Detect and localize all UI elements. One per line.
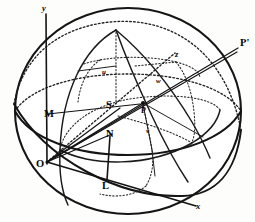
label-point-N: N — [106, 128, 114, 139]
sphere-diagram: y x z O M N L S P P' u w v — [0, 0, 255, 222]
label-point-P: P — [141, 106, 146, 115]
y-axis-line — [46, 14, 47, 164]
point-marker-P — [141, 101, 145, 105]
label-angle-w: w — [156, 77, 161, 85]
label-point-P-prime: P' — [240, 37, 249, 48]
label-x-axis: x — [195, 201, 201, 211]
label-y-axis: y — [41, 3, 46, 13]
label-point-M: M — [44, 108, 54, 119]
label-point-O: O — [36, 158, 44, 169]
label-point-L: L — [102, 180, 109, 191]
label-point-S: S — [106, 99, 112, 110]
figure-root: y x z O M N L S P P' u w v — [0, 0, 255, 222]
label-angle-u: u — [102, 68, 106, 76]
label-z-axis: z — [174, 49, 179, 59]
point-marker-O — [45, 160, 48, 163]
